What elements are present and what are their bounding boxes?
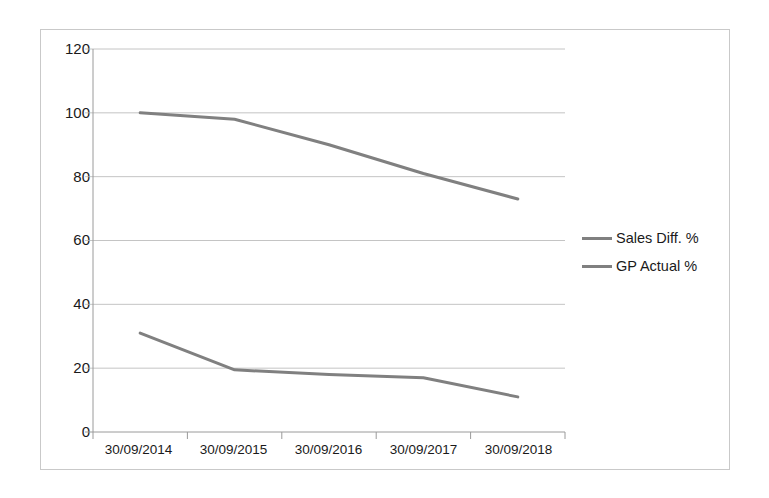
y-axis-tick-label-20: 20	[46, 360, 90, 375]
legend-entry-sales-diff[interactable]: Sales Diff. %	[582, 224, 732, 252]
chart-legend: Sales Diff. % GP Actual %	[582, 224, 732, 280]
legend-swatch-gp-actual	[582, 265, 612, 268]
y-axis-tick-label-60: 60	[46, 232, 90, 247]
legend-entry-gp-actual[interactable]: GP Actual %	[582, 252, 732, 280]
x-axis-tick-label-2: 30/09/2015	[186, 443, 281, 457]
x-axis-tick-label-1: 30/09/2014	[91, 443, 186, 457]
legend-label-sales-diff: Sales Diff. %	[616, 230, 699, 246]
y-axis-tick-label-40: 40	[46, 296, 90, 311]
legend-label-gp-actual: GP Actual %	[616, 258, 697, 274]
y-axis-tick-label-0: 0	[46, 424, 90, 439]
x-axis-tick-label-4: 30/09/2017	[376, 443, 471, 457]
x-axis-tick-label-5: 30/09/2018	[471, 443, 566, 457]
y-axis-tick-label-100: 100	[46, 105, 90, 120]
y-axis-tick-label-80: 80	[46, 169, 90, 184]
x-axis-tick-label-3: 30/09/2016	[281, 443, 376, 457]
legend-swatch-sales-diff	[582, 237, 612, 240]
y-axis-tick-label-120: 120	[46, 41, 90, 56]
